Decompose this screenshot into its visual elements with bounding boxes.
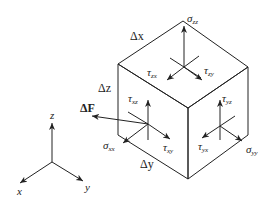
labels: Δx Δz Δy ΔF σzz τzx τzy τxz τxy σxx τyz … — [16, 12, 259, 197]
x-axis-label: x — [16, 185, 22, 197]
sigma-xx-arrow — [123, 124, 148, 143]
delta-x-label: Δx — [130, 29, 144, 43]
x-axis — [20, 162, 52, 183]
stress-element-diagram: Δx Δz Δy ΔF σzz τzx τzy τxz τxy σxx τyz … — [0, 0, 271, 202]
sigma-yy-label: σyy — [246, 143, 259, 157]
delta-f-arrow — [92, 116, 148, 124]
sigma-yy-arrow — [220, 126, 242, 141]
tau-zy-label: τzy — [204, 64, 215, 78]
cube-right-face — [188, 67, 248, 179]
y-axis — [52, 162, 83, 181]
tau-xy-label: τxy — [163, 141, 174, 155]
tau-zy-arrow — [184, 67, 202, 80]
coordinate-axes — [20, 123, 83, 183]
left-face-vectors — [92, 100, 170, 143]
tau-yz-label: τyz — [222, 92, 232, 106]
right-face-guide-line — [220, 116, 235, 126]
tau-zx-label: τzx — [147, 66, 158, 80]
top-face-guide-line-2 — [184, 56, 199, 67]
delta-f-label: ΔF — [80, 101, 95, 115]
right-face-vectors — [202, 100, 242, 141]
delta-z-label: Δz — [98, 81, 111, 95]
sigma-zz-label: σzz — [187, 12, 198, 26]
tau-zx-arrow — [167, 67, 184, 80]
sigma-xx-label: σxx — [103, 139, 116, 153]
tau-xz-label: τxz — [128, 92, 138, 106]
y-axis-label: y — [84, 181, 90, 193]
tau-yx-arrow — [202, 126, 220, 138]
delta-y-label: Δy — [140, 157, 154, 171]
tau-yx-label: τyx — [198, 140, 209, 154]
tau-xy-arrow — [148, 124, 170, 139]
top-face-vectors — [167, 26, 202, 80]
z-axis-label: z — [49, 109, 55, 121]
